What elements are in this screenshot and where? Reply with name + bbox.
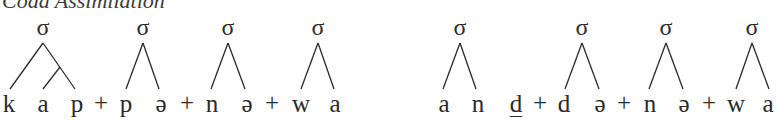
plus-sign: + — [265, 90, 279, 115]
syllable-node: σ — [37, 15, 50, 39]
segment: a — [762, 91, 773, 116]
syllable-node: σ — [137, 15, 150, 39]
plus-sign: + — [94, 90, 108, 115]
segment: ə — [241, 91, 252, 116]
segment: a — [37, 91, 48, 116]
syllable-node: σ — [576, 15, 589, 39]
segment: p — [71, 91, 84, 116]
segment: ə — [155, 91, 166, 116]
segment: n — [644, 91, 657, 116]
segment: ə — [594, 91, 605, 116]
segment: a — [438, 91, 449, 116]
plus-sign: + — [702, 90, 716, 115]
segment: w — [727, 91, 745, 116]
segment: a — [329, 91, 340, 116]
segment: ə — [678, 91, 689, 116]
unsyllabified-segment: d — [510, 91, 523, 116]
syllable-node: σ — [222, 15, 235, 39]
segment: n — [206, 91, 219, 116]
plus-sign: + — [180, 90, 194, 115]
syllable-node: σ — [746, 15, 759, 39]
segment: w — [292, 91, 310, 116]
segment: p — [120, 91, 133, 116]
syllable-node: σ — [660, 15, 673, 39]
plus-sign: + — [533, 90, 547, 115]
segment: k — [3, 91, 16, 116]
syllable-node: σ — [312, 15, 325, 39]
plus-sign: + — [617, 90, 631, 115]
syllable-node: σ — [454, 15, 467, 39]
segment: d — [558, 91, 571, 116]
segment: n — [472, 91, 485, 116]
